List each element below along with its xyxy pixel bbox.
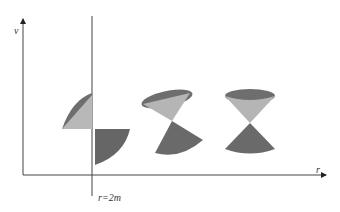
diagram-canvas (0, 0, 340, 212)
horizon-label: r=2m (98, 192, 121, 203)
cone-far (225, 89, 275, 154)
cone-intermediate (140, 86, 203, 155)
cone-at-horizon (62, 93, 130, 165)
r-axis-label: r (316, 164, 320, 175)
v-axis-label: v (14, 25, 18, 36)
